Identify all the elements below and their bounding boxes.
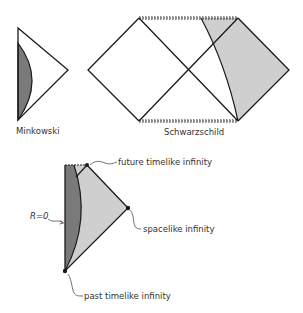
schwarzschild-label: Schwarzschild: [164, 127, 224, 137]
future-timelike-infinity-label: future timelike infinity: [118, 157, 212, 167]
minkowski-label: Minkowski: [16, 126, 60, 136]
past-timelike-infinity-point: [63, 269, 67, 273]
minkowski-diagram: [18, 28, 68, 120]
past-leader: [68, 274, 83, 296]
spacelike-infinity-point: [126, 206, 130, 210]
spacelike-leader: [130, 210, 141, 229]
collapse-diagram: [48, 161, 141, 296]
future-timelike-infinity-point: [85, 163, 89, 167]
past-timelike-infinity-label: past timelike infinity: [84, 291, 171, 301]
spacelike-infinity-label: spacelike infinity: [143, 224, 214, 234]
schwarzschild-diagram: [88, 17, 289, 123]
r-zero-label: R=0: [30, 211, 48, 221]
schwarzschild-exterior-shaded: [201, 18, 289, 121]
future-leader: [90, 161, 117, 165]
